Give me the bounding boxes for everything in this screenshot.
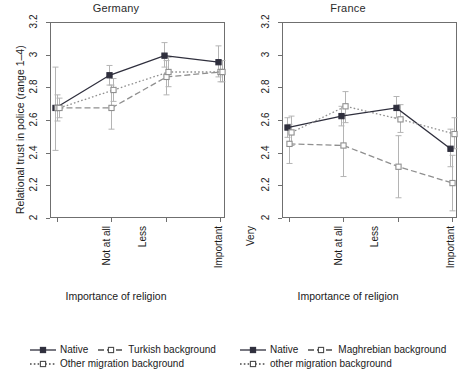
y-tick-label: 3.2	[260, 11, 271, 33]
x-tick	[289, 218, 290, 222]
panel-france: France 22.22.42.62.833.2 Not at allLessI…	[232, 0, 464, 320]
y-tick	[278, 120, 282, 121]
x-tick	[111, 218, 112, 222]
x-axis-title-france: Importance of religion	[232, 290, 464, 302]
y-tick	[278, 55, 282, 56]
legend-label: Other migration background	[60, 358, 184, 369]
legend-line-marker-icon	[308, 345, 334, 355]
legend-label: Turkish background	[128, 344, 215, 355]
legend-row: Other migration background	[30, 358, 226, 369]
y-tick	[46, 55, 50, 56]
y-tick-label: 2.4	[28, 141, 39, 163]
y-tick-label: 2.8	[260, 76, 271, 98]
y-tick-label: 3.2	[28, 11, 39, 33]
x-tick	[57, 218, 58, 222]
plot-svg-germany	[51, 23, 226, 219]
x-tick	[452, 218, 453, 222]
y-tick-label: 2.6	[260, 109, 271, 131]
x-tick-label: Less	[369, 226, 380, 247]
x-axis-title-germany: Importance of religion	[0, 290, 232, 302]
y-tick	[46, 87, 50, 88]
legend-germany: NativeTurkish backgroundOther migration …	[30, 344, 226, 372]
y-tick-label: 2.2	[28, 174, 39, 196]
legend-row: NativeMaghrebian background	[240, 344, 456, 355]
y-tick	[46, 120, 50, 121]
x-tick	[220, 218, 221, 222]
plot-area-france	[282, 22, 457, 218]
legend-line-marker-icon	[240, 345, 266, 355]
legend-entry[interactable]: other migration background	[240, 358, 392, 369]
y-tick-label: 3	[28, 43, 39, 65]
legend-entry[interactable]: Native	[240, 344, 298, 355]
plot-area-germany	[50, 22, 225, 218]
legend-line-marker-icon	[240, 359, 266, 369]
legend-line-marker-icon	[30, 345, 56, 355]
x-tick-label: Not at all	[101, 226, 112, 265]
legend-label: Native	[60, 344, 88, 355]
y-tick	[46, 22, 50, 23]
legend-label: Native	[270, 344, 298, 355]
legend-entry[interactable]: Native	[30, 344, 88, 355]
y-tick	[278, 22, 282, 23]
legend-row: other migration background	[240, 358, 456, 369]
y-tick	[278, 153, 282, 154]
y-tick-label: 2.4	[260, 141, 271, 163]
y-tick-label: 2	[260, 207, 271, 229]
y-tick-label: 2.8	[28, 76, 39, 98]
x-tick	[398, 218, 399, 222]
x-tick-label: Important	[445, 226, 456, 268]
figure-canvas: Germany Relational trust in police (rang…	[0, 0, 464, 385]
y-tick-label: 2.6	[28, 109, 39, 131]
legend-entry[interactable]: Turkish background	[98, 344, 215, 355]
y-tick-label: 2.2	[260, 174, 271, 196]
legend-row: NativeTurkish background	[30, 344, 226, 355]
y-tick	[278, 87, 282, 88]
x-tick-label: Not at all	[333, 226, 344, 265]
legend-label: Maghrebian background	[338, 344, 446, 355]
legend-line-marker-icon	[98, 345, 124, 355]
y-tick	[46, 185, 50, 186]
legend-entry[interactable]: Other migration background	[30, 358, 184, 369]
x-tick	[166, 218, 167, 222]
y-axis-label: Relational trust in police (range 1–4)	[14, 45, 26, 214]
y-tick	[278, 185, 282, 186]
panel-germany: Germany Relational trust in police (rang…	[0, 0, 232, 320]
x-tick-label: Less	[137, 226, 148, 247]
y-tick-label: 2	[28, 207, 39, 229]
plot-svg-france	[283, 23, 458, 219]
y-tick-label: 3	[260, 43, 271, 65]
x-tick	[343, 218, 344, 222]
x-tick-label: Important	[213, 226, 224, 268]
legend-label: other migration background	[270, 358, 392, 369]
y-tick	[46, 153, 50, 154]
legend-france: NativeMaghrebian backgroundother migrati…	[240, 344, 456, 372]
legend-line-marker-icon	[30, 359, 56, 369]
y-tick	[278, 218, 282, 219]
y-tick	[46, 218, 50, 219]
legend-entry[interactable]: Maghrebian background	[308, 344, 446, 355]
